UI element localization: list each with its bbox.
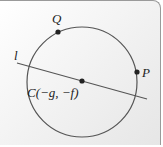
label-l: l — [14, 48, 18, 63]
point-p — [134, 69, 139, 74]
label-q: Q — [52, 11, 62, 26]
label-c: C(−g, −f) — [27, 85, 79, 100]
point-c — [79, 78, 84, 83]
point-q — [55, 29, 60, 34]
circle-diagram: Q P C(−g, −f) l — [0, 0, 163, 147]
label-p: P — [141, 65, 150, 80]
